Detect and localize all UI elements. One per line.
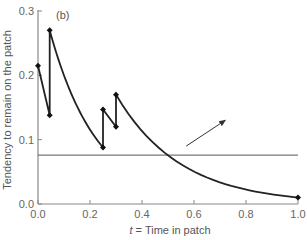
y-tick-label: 0.2	[19, 69, 34, 81]
ticks: 0.00.20.40.60.81.00.00.10.20.3	[19, 5, 306, 220]
data-curve	[38, 30, 298, 197]
chart: 0.00.20.40.60.81.00.00.10.20.3 (b) t = T…	[0, 0, 307, 240]
diamond-marker-icon	[295, 195, 301, 201]
x-tick-label: 0.6	[186, 208, 201, 220]
diamond-marker-icon	[47, 112, 53, 118]
data-markers	[35, 27, 301, 200]
x-tick-label: 0.2	[82, 208, 97, 220]
x-tick-label: 0.4	[134, 208, 149, 220]
y-tick-label: 0.1	[19, 134, 34, 146]
panel-label: (b)	[56, 9, 69, 21]
x-tick-label: 1.0	[290, 208, 305, 220]
y-axis-label: Tendency to remain on the patch	[1, 30, 13, 190]
x-tick-label: 0.8	[238, 208, 253, 220]
y-tick-label: 0.0	[19, 198, 34, 210]
trend-arrow-icon	[186, 120, 225, 146]
y-tick-label: 0.3	[19, 5, 34, 17]
diamond-marker-icon	[35, 63, 41, 69]
x-axis-label: t = Time in patch	[129, 224, 210, 236]
diamond-marker-icon	[47, 27, 53, 33]
